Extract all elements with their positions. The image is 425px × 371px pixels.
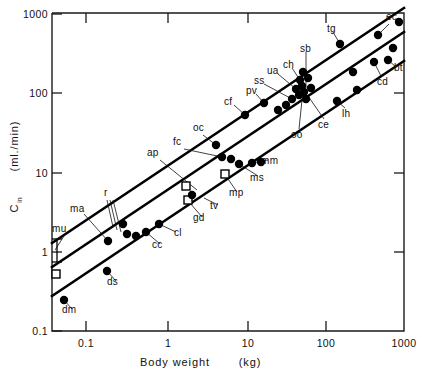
- data-point: [282, 101, 290, 109]
- filled-circle-markers: [60, 18, 403, 304]
- figure-container: 1000 100 10 1 0.1 0.1 1 10 100 1000 Body…: [0, 0, 425, 371]
- y-axis-title: C in (ml./min): [8, 121, 23, 213]
- point-label-cc: cc: [152, 239, 163, 250]
- y-tick-labels: 1000 100 10 1 0.1: [23, 8, 48, 337]
- point-label-mu: mu: [52, 223, 67, 234]
- x-axis-title-text: Body weight: [140, 356, 210, 368]
- data-point: [188, 191, 196, 199]
- x-axis-units: (kg): [239, 356, 262, 368]
- data-point: [103, 267, 111, 275]
- y-tick-label-10: 10: [36, 167, 48, 179]
- y-tick-label-1000: 1000: [23, 8, 48, 20]
- leader-lines: [55, 24, 396, 309]
- data-point: [374, 31, 382, 39]
- data-point: [119, 220, 127, 228]
- data-point: [104, 237, 112, 245]
- data-point: [123, 230, 131, 238]
- point-label-dm: dm: [62, 304, 77, 315]
- point-label-ua: ua: [267, 65, 279, 76]
- x-tick-label-0.1: 0.1: [78, 337, 94, 349]
- data-point: [302, 95, 310, 103]
- data-point: [304, 74, 312, 82]
- point-label-gd: gd: [193, 212, 205, 223]
- data-point-open-square: [221, 170, 229, 178]
- data-point: [336, 40, 344, 48]
- y-axis-title-subscript: in: [16, 197, 23, 203]
- point-label-ss: ss: [254, 75, 265, 86]
- y-tick-label-1: 1: [42, 246, 48, 258]
- regression-line-upper: [52, 8, 404, 243]
- point-label-oc: oc: [193, 122, 204, 133]
- point-label-mm: mm: [261, 155, 278, 166]
- x-tick-label-1000: 1000: [392, 337, 417, 349]
- data-point-open-square: [52, 270, 60, 278]
- x-tick-label-1: 1: [165, 337, 171, 349]
- x-tick-label-100: 100: [317, 337, 336, 349]
- data-point: [248, 159, 256, 167]
- data-point: [212, 141, 220, 149]
- point-label-tv: tv: [210, 200, 218, 211]
- data-point: [235, 160, 243, 168]
- point-label-cd: cd: [377, 76, 388, 87]
- point-label-ds: ds: [107, 276, 118, 287]
- y-axis-title-text: C: [8, 204, 20, 213]
- data-point: [384, 56, 392, 64]
- point-label-r: r: [104, 187, 108, 198]
- point-label-pv: pv: [246, 85, 257, 96]
- data-point: [241, 111, 249, 119]
- x-axis-title: Body weight (kg): [140, 356, 261, 368]
- data-point: [60, 296, 68, 304]
- point-label-cf: cf: [224, 96, 232, 107]
- point-label-cl: cl: [174, 227, 182, 238]
- data-point: [274, 106, 282, 114]
- scatter-plot-svg: 1000 100 10 1 0.1 0.1 1 10 100 1000 Body…: [0, 0, 425, 371]
- data-point: [132, 232, 140, 240]
- x-tick-labels: 0.1 1 10 100 1000: [78, 337, 416, 349]
- data-point: [353, 86, 361, 94]
- y-axis-units: (ml./min): [8, 121, 20, 172]
- point-label-tg: tg: [327, 23, 336, 34]
- data-point: [227, 155, 235, 163]
- point-label-ap: ap: [147, 147, 159, 158]
- point-label-ms: ms: [250, 172, 264, 183]
- data-point: [349, 68, 357, 76]
- data-point: [155, 220, 163, 228]
- data-point: [218, 153, 226, 161]
- point-label-lh: lh: [342, 108, 350, 119]
- point-label-fc: fc: [173, 136, 181, 147]
- point-label-ce: ce: [318, 119, 329, 130]
- y-tick-label-0.1: 0.1: [32, 325, 48, 337]
- point-label-ma: ma: [70, 203, 85, 214]
- data-point: [370, 58, 378, 66]
- point-label-bt: bt: [394, 62, 403, 73]
- point-label-mp: mp: [229, 187, 244, 198]
- data-point: [307, 84, 315, 92]
- regression-lines: [52, 8, 404, 296]
- data-point: [260, 99, 268, 107]
- x-tick-label-10: 10: [242, 337, 254, 349]
- point-label-oo: oo: [291, 129, 303, 140]
- data-point: [389, 44, 397, 52]
- data-point: [142, 228, 150, 236]
- data-point: [333, 97, 341, 105]
- data-point-open-square: [182, 182, 190, 190]
- y-tick-label-100: 100: [29, 87, 48, 99]
- regression-line-middle: [52, 32, 404, 267]
- point-label-sb: sb: [300, 43, 311, 54]
- point-label-ec: ec: [386, 11, 397, 22]
- point-label-ch: ch: [283, 59, 294, 70]
